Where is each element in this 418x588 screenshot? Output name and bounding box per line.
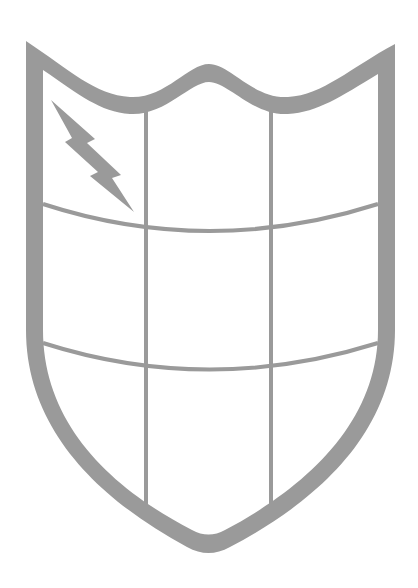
shield-illustration: [0, 0, 418, 588]
shield-icon: [0, 0, 418, 588]
